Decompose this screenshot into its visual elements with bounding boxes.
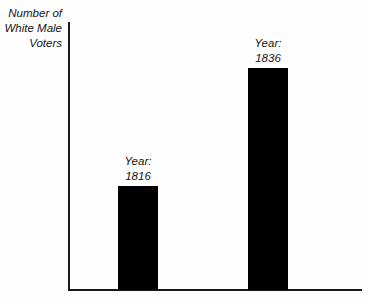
bar-1816-label-line-2: 1816 bbox=[98, 169, 178, 184]
bar-1836-label-line-2: 1836 bbox=[228, 51, 308, 66]
bar-1836 bbox=[248, 68, 288, 290]
bar-1836-label-line-1: Year: bbox=[228, 36, 308, 51]
bar-1816-label: Year: 1816 bbox=[98, 154, 178, 184]
bar-chart: Number of White Male Voters Year: 1816 Y… bbox=[0, 0, 368, 306]
plot-area: Year: 1816 Year: 1836 bbox=[0, 0, 368, 306]
bar-1816-label-line-1: Year: bbox=[98, 154, 178, 169]
bar-1836-label: Year: 1836 bbox=[228, 36, 308, 66]
bar-1816 bbox=[118, 186, 158, 290]
